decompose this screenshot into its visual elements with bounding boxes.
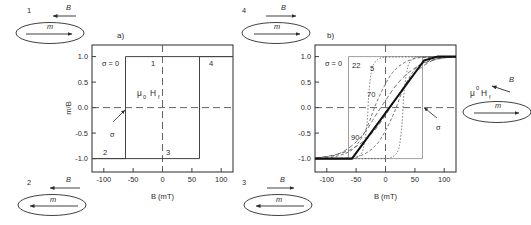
panel-b-xlabel: B (mT) bbox=[374, 192, 398, 201]
panel-a-mu: μ bbox=[137, 88, 142, 98]
panel-a-mu-sub: 0 bbox=[143, 94, 146, 100]
panel-a: a) 1.0 0.5 0.0 -0.5 -1.0 -100 -50 0 50 bbox=[64, 31, 233, 201]
panel-b-curve-label-90: 90 bbox=[351, 133, 359, 142]
panel-b-ytick-2: 0.0 bbox=[301, 103, 311, 112]
panel-b-ytick-0: 1.0 bbox=[301, 52, 311, 61]
panel-a-label: a) bbox=[117, 31, 124, 40]
panel-b-ytick-4: -1.0 bbox=[298, 154, 311, 163]
panel-a-quadrant-2: 2 bbox=[103, 148, 107, 157]
panel-b-label: b) bbox=[327, 31, 334, 40]
panel-b-ytick-3: -0.5 bbox=[298, 129, 311, 138]
panel-b-sigma-arrow bbox=[424, 108, 437, 118]
inset-right-b-arrow bbox=[492, 86, 510, 92]
panel-a-xtick-1: -50 bbox=[128, 175, 139, 184]
panel-a-ytick-4: -1.0 bbox=[75, 154, 88, 163]
inset-3-number: 3 bbox=[242, 178, 246, 187]
inset-right-mu-sub: 0 bbox=[476, 85, 479, 91]
inset-1-m-label: m bbox=[47, 22, 53, 31]
inset-2-m-label: m bbox=[50, 195, 56, 204]
panel-b-sigma-label: σ = 0 bbox=[325, 59, 342, 68]
panel-a-ytick-3: -0.5 bbox=[75, 129, 88, 138]
inset-right-h-sub: f bbox=[489, 94, 491, 100]
inset-right-m-label: m bbox=[495, 101, 501, 110]
panel-a-sigma-arrow bbox=[113, 110, 125, 122]
panel-a-xlabel: B (mT) bbox=[151, 192, 175, 201]
inset-state-1: 1 B m bbox=[16, 3, 84, 44]
panel-a-xtick-0: -100 bbox=[96, 175, 111, 184]
inset-3-m-label: m bbox=[276, 195, 282, 204]
panel-b-xtick-1: -50 bbox=[351, 175, 362, 184]
panel-a-quadrant-3: 3 bbox=[166, 148, 170, 157]
panel-b-ytick-1: 0.5 bbox=[301, 78, 311, 87]
panel-a-sigma-arrow-label: σ bbox=[110, 130, 115, 139]
panel-a-xtick-3: 50 bbox=[188, 175, 196, 184]
panel-b-xtick-2: 0 bbox=[383, 175, 387, 184]
inset-state-3: 3 B m bbox=[242, 175, 312, 216]
panel-b-xtick-3: 50 bbox=[411, 175, 419, 184]
panel-b-curve-label-5: 5 bbox=[370, 64, 374, 73]
panel-a-quadrant-1: 1 bbox=[151, 59, 155, 68]
panel-b-xtick-0: -100 bbox=[319, 175, 334, 184]
panel-b: b) 1.0 0.5 0.0 -0.5 -1.0 -100 -50 0 50 1… bbox=[298, 31, 456, 201]
panel-a-quadrant-4: 4 bbox=[209, 59, 213, 68]
panel-a-xtick-2: 0 bbox=[160, 175, 164, 184]
figure-hysteresis-loops: 1 B m 2 B m 3 B m 4 B m μ 0 H f B bbox=[0, 0, 531, 225]
inset-4-b-label: B bbox=[281, 3, 286, 12]
inset-2-number: 2 bbox=[27, 178, 31, 187]
inset-3-b-label: B bbox=[280, 175, 285, 184]
panel-b-xtick-4: 100 bbox=[438, 175, 450, 184]
inset-4-number: 4 bbox=[242, 6, 246, 15]
figure-svg: 1 B m 2 B m 3 B m 4 B m μ 0 H f B bbox=[0, 0, 531, 225]
inset-state-2: 2 B m bbox=[18, 175, 86, 216]
panel-a-ytick-0: 1.0 bbox=[78, 52, 88, 61]
panel-a-h: H bbox=[150, 88, 156, 98]
panel-b-curve-label-70: 70 bbox=[367, 90, 375, 99]
panel-a-h-sub: f bbox=[158, 94, 160, 100]
panel-a-ytick-2: 0.0 bbox=[78, 103, 88, 112]
panel-a-sigma-label: σ = 0 bbox=[102, 59, 119, 68]
inset-2-b-label: B bbox=[66, 175, 71, 184]
inset-state-4: 4 B m bbox=[242, 3, 310, 44]
panel-a-xticks: -100 -50 0 50 100 bbox=[96, 168, 227, 184]
panel-a-ytick-1: 0.5 bbox=[78, 78, 88, 87]
panel-b-curve-label-22: 22 bbox=[352, 61, 360, 70]
panel-b-sigma-arrow-label: σ bbox=[436, 123, 441, 132]
inset-right-h: H bbox=[481, 88, 487, 98]
inset-right-mu: μ bbox=[470, 88, 475, 98]
inset-right-b-label: B bbox=[509, 75, 514, 84]
inset-1-number: 1 bbox=[27, 6, 31, 15]
panel-a-ylabel: m/B bbox=[64, 101, 73, 115]
inset-4-m-label: m bbox=[274, 22, 280, 31]
inset-state-right: μ 0 H f B m bbox=[463, 75, 531, 123]
panel-a-xtick-4: 100 bbox=[215, 175, 227, 184]
panel-a-field-label: μ 0 H f bbox=[137, 88, 160, 100]
inset-1-b-label: B bbox=[66, 3, 71, 12]
panel-b-xticks: -100 -50 0 50 100 bbox=[319, 168, 450, 184]
